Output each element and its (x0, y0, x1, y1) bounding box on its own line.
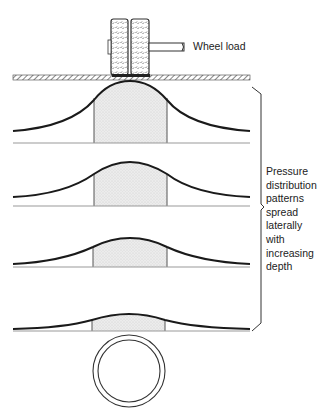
note-line: with (266, 233, 326, 247)
pressure-curve-2 (13, 162, 250, 206)
note-line: Pressure (266, 165, 326, 179)
wheel-right (131, 19, 149, 75)
pressure-curve-4 (13, 314, 250, 331)
pressure-curve-1 (13, 81, 250, 143)
pressure-distribution-note: Pressure distribution patterns spread la… (266, 165, 326, 274)
hub-cap (108, 40, 111, 54)
wheel-left (111, 19, 128, 75)
note-line: patterns (266, 192, 326, 206)
note-line: distribution (266, 179, 326, 193)
note-line: increasing (266, 247, 326, 261)
pressure-curve-3 (13, 238, 250, 267)
note-line: depth (266, 260, 326, 274)
wheel-assembly (108, 19, 184, 75)
note-line: spread (266, 206, 326, 220)
tire-contact (112, 74, 150, 77)
pipe-cross-section (93, 335, 165, 407)
note-line: laterally (266, 219, 326, 233)
axle (149, 43, 184, 51)
bracket (252, 87, 264, 331)
wheel-load-label: Wheel load (193, 40, 246, 54)
